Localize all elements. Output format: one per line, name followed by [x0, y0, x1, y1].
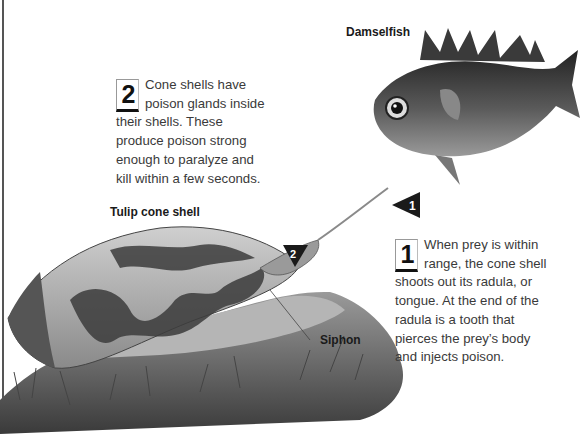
illustration-page: 1 2 Damselfish Tulip cone shell Siphon 2… — [0, 0, 582, 434]
caption-number-1: 1 — [395, 239, 418, 272]
label-damselfish: Damselfish — [346, 25, 410, 39]
cone-shell-illustration: 1 2 — [0, 0, 582, 434]
caption-2: 2 Cone shells have poison glands inside … — [116, 76, 266, 188]
label-tulip-cone-shell: Tulip cone shell — [110, 205, 200, 219]
label-siphon: Siphon — [320, 333, 361, 347]
damselfish — [374, 28, 580, 185]
caption-number-2: 2 — [116, 79, 139, 112]
marker-1: 1 — [392, 192, 420, 218]
radula-tongue — [318, 188, 388, 240]
svg-text:1: 1 — [409, 199, 416, 213]
caption-1: 1 When prey is within range, the cone sh… — [395, 236, 553, 367]
svg-text:2: 2 — [290, 248, 296, 260]
